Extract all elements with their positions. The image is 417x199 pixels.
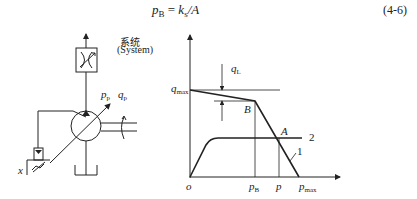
x-tick-pmax: pmax: [299, 180, 317, 194]
displacement-label: x: [18, 164, 23, 176]
curve-2: [190, 138, 302, 177]
throttle-valve-icon: [76, 48, 97, 72]
pump-flow-label: qp: [118, 88, 127, 102]
pump-pressure-label: pp: [101, 88, 110, 102]
point-A-label: A: [281, 125, 288, 137]
origin-label: o: [186, 180, 192, 192]
curve-1-label: 1: [297, 145, 303, 157]
rotation-arrow-icon: [122, 117, 125, 139]
hydraulic-schematic: [27, 34, 137, 175]
diagram-canvas: [0, 0, 417, 199]
curve-2-label: 2: [309, 131, 315, 143]
point-B-label: B: [244, 103, 251, 115]
x-tick-pB: pB: [249, 180, 259, 194]
qmax-label: qmax: [171, 82, 189, 96]
characteristic-graph: [190, 35, 340, 178]
system-label-en: (System): [117, 44, 153, 55]
qL-label: qL: [231, 62, 241, 76]
x-tick-p: p: [276, 180, 282, 194]
